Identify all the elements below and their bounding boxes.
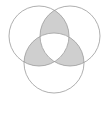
venn-diagram-figure: [0, 0, 109, 120]
venn-diagram-svg: [0, 0, 109, 120]
